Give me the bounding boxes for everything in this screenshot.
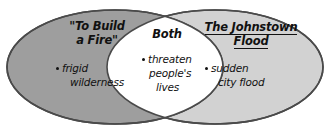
- venn-shapes: [0, 0, 330, 134]
- venn-diagram: "To Build a Fire" frigid wilderness Both…: [0, 0, 330, 134]
